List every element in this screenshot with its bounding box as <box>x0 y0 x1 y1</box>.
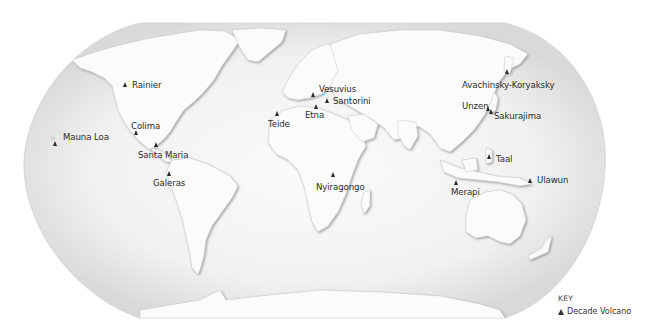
volcano-label: Nyiragongo <box>316 182 365 192</box>
volcano-label: Sakurajima <box>494 111 541 121</box>
volcano-label: Colima <box>131 121 160 131</box>
volcano-marker-icon <box>331 172 335 177</box>
map-key: KEY Decade Volcano <box>558 294 631 316</box>
volcano-marker-icon <box>311 92 315 97</box>
key-entry-label: Decade Volcano <box>567 307 631 316</box>
volcano-label: Unzen <box>462 101 488 111</box>
volcano-marker-icon <box>275 111 279 116</box>
volcano-label: Teide <box>268 119 290 129</box>
volcano-marker-icon <box>325 98 329 103</box>
volcano-triangle-icon <box>558 309 564 315</box>
volcano-marker-icon <box>123 82 127 87</box>
volcano-label: Etna <box>305 110 324 120</box>
volcano-label: Santa Maria <box>138 150 188 160</box>
volcano-label: Rainier <box>132 80 161 90</box>
volcano-marker-icon <box>528 178 532 183</box>
hawaii <box>51 136 53 138</box>
world-map <box>0 0 647 334</box>
key-entry: Decade Volcano <box>558 307 631 316</box>
volcano-marker-icon <box>489 109 493 114</box>
volcano-label: Santorini <box>333 96 371 106</box>
volcano-label: Vesuvius <box>319 84 356 94</box>
volcano-label: Galeras <box>153 178 185 188</box>
volcano-label: Avachinsky-Koryaksky <box>462 80 554 90</box>
volcano-marker-icon <box>487 154 491 159</box>
volcano-label: Taal <box>496 154 512 164</box>
volcano-label: Mauna Loa <box>63 132 109 142</box>
volcano-marker-icon <box>454 180 458 185</box>
volcano-label: Ulawun <box>537 175 568 185</box>
volcano-marker-icon <box>314 104 318 109</box>
volcano-label: Merapi <box>451 187 480 197</box>
volcano-marker-icon <box>154 142 158 147</box>
volcano-marker-icon <box>53 141 57 146</box>
volcano-marker-icon <box>505 69 509 74</box>
volcano-marker-icon <box>167 171 171 176</box>
key-title: KEY <box>558 294 631 303</box>
